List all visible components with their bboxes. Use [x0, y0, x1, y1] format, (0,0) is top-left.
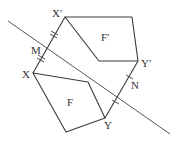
label-x: X: [22, 68, 30, 80]
label-f-prime: F′: [101, 31, 110, 43]
label-y: Y: [104, 119, 112, 131]
reflection-diagram: X′ M X F′ F Y′ N Y: [0, 0, 179, 148]
label-y-prime: Y′: [141, 57, 151, 69]
mirror-line: [8, 21, 170, 134]
label-m: M: [31, 44, 41, 56]
label-n: N: [131, 79, 139, 91]
label-f: F: [67, 96, 73, 108]
label-x-prime: X′: [52, 7, 62, 19]
